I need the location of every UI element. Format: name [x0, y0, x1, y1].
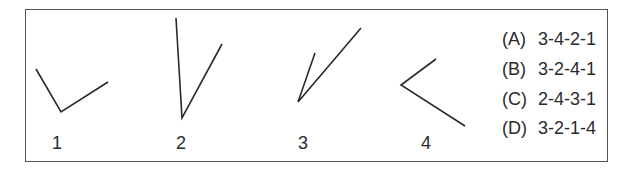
option-b: (B)3-2-4-1	[502, 59, 596, 79]
angle-figures	[0, 0, 631, 171]
option-letter: (C)	[502, 89, 538, 109]
angle-figure-3	[298, 28, 361, 102]
figure-label-1: 1	[52, 134, 62, 152]
angle-figure-1	[36, 69, 108, 112]
option-value: 3-2-4-1	[538, 59, 596, 79]
angle-figure-4	[401, 59, 465, 126]
option-value: 3-2-1-4	[538, 118, 596, 138]
angle-figure-2	[176, 18, 222, 118]
option-letter: (B)	[502, 59, 538, 79]
option-value: 3-4-2-1	[538, 29, 596, 49]
figure-label-2: 2	[176, 134, 186, 152]
option-a: (A)3-4-2-1	[502, 29, 596, 49]
option-letter: (A)	[502, 29, 538, 49]
option-letter: (D)	[502, 118, 538, 138]
figure-label-3: 3	[298, 134, 308, 152]
option-d: (D)3-2-1-4	[502, 118, 596, 138]
option-value: 2-4-3-1	[538, 89, 596, 109]
figure-label-4: 4	[421, 134, 431, 152]
option-c: (C)2-4-3-1	[502, 89, 596, 109]
